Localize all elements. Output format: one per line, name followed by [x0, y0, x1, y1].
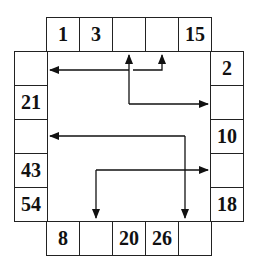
arrows-layer	[0, 0, 259, 272]
arrow-to-top-4	[133, 55, 162, 70]
